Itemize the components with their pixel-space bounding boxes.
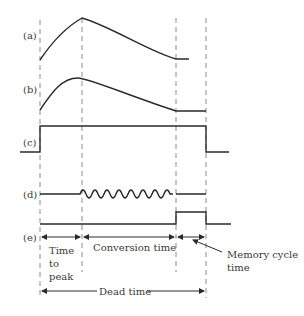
time-to-peak-line1: Time xyxy=(49,245,74,256)
conversion-time-label: Conversion time xyxy=(93,242,176,253)
label-b: (b) xyxy=(23,84,37,95)
memory-cycle-line1: Memory cycle xyxy=(227,249,298,260)
dead-time-label: Dead time xyxy=(99,286,151,297)
label-d: (d) xyxy=(23,189,37,200)
memory-cycle-line2: time xyxy=(227,262,250,273)
signal-d-oscillation xyxy=(40,190,206,198)
timing-diagram: (a) (b) (c) (d) (e) Time to peak Convers… xyxy=(0,0,304,316)
signal-a-curve xyxy=(40,18,189,60)
label-c: (c) xyxy=(23,137,37,148)
signal-b-curve xyxy=(40,78,206,111)
dashed-guides xyxy=(40,18,206,298)
time-to-peak-line3: peak xyxy=(49,271,74,282)
label-a: (a) xyxy=(23,30,37,41)
label-e: (e) xyxy=(23,232,37,243)
signal-e-memory-pulse xyxy=(40,212,231,224)
memory-cycle-pointer xyxy=(193,240,222,252)
signal-c-gate xyxy=(20,126,229,152)
time-to-peak-line2: to xyxy=(49,258,59,269)
